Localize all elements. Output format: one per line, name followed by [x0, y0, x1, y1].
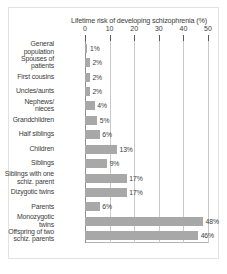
x-tick-label-20: 20: [130, 25, 138, 32]
x-tick-0: [85, 35, 86, 41]
bar-value-label: 2%: [92, 87, 102, 96]
plot-area: 010203040501%Generalpopulation2%Spouses …: [85, 41, 208, 243]
bar-value-label: 9%: [110, 159, 120, 168]
category-label-line: Spouses of: [0, 55, 54, 63]
category-label: Siblings: [0, 159, 54, 167]
bar-value-label: 48%: [206, 217, 219, 226]
category-label-line: nieces: [0, 105, 54, 113]
category-label-line: Siblings: [0, 159, 54, 167]
chart-figure: Lifetime risk of developing schizophreni…: [8, 7, 219, 259]
chart-title: Lifetime risk of developing schizophreni…: [59, 16, 219, 25]
bar-value-label: 6%: [102, 130, 112, 139]
bar: [85, 73, 90, 82]
x-tick-40: [183, 35, 184, 41]
category-label-line: General: [0, 40, 54, 48]
bar: [85, 101, 95, 110]
bar-value-label: 2%: [92, 58, 102, 67]
x-tick-30: [159, 35, 160, 41]
gridline-30: [159, 41, 160, 243]
x-tick-50: [208, 35, 209, 41]
x-tick-10: [110, 35, 111, 41]
bar: [85, 58, 90, 67]
gridline-10: [110, 41, 111, 243]
bar-value-label: 6%: [102, 202, 112, 211]
bar-value-label: 46%: [201, 231, 214, 240]
category-label: Spouses ofpatients: [0, 55, 54, 70]
category-label: Half siblings: [0, 130, 54, 138]
x-tick-label-30: 30: [155, 25, 163, 32]
bar: [85, 159, 107, 168]
gridline-50: [208, 41, 209, 243]
bar-value-label: 4%: [97, 101, 107, 110]
x-tick-label-10: 10: [106, 25, 114, 32]
bar: [85, 231, 198, 240]
category-label-line: schiz. parents: [0, 235, 54, 243]
category-label-line: patients: [0, 62, 54, 70]
bar: [85, 174, 127, 183]
category-label-line: Nephews/: [0, 98, 54, 106]
bar-value-label: 1%: [90, 44, 100, 53]
axis-baseline: [85, 242, 208, 243]
category-label: Monozygotictwins: [0, 213, 54, 228]
category-label-line: Children: [0, 145, 54, 153]
bar: [85, 44, 87, 53]
category-label-line: Uncles/aunts: [0, 87, 54, 95]
category-label: Grandchildren: [0, 116, 54, 124]
category-label-line: Siblings with one: [0, 170, 54, 178]
x-tick-20: [134, 35, 135, 41]
category-label-line: Monozygotic: [0, 213, 54, 221]
category-label: First cousins: [0, 73, 54, 81]
bar-value-label: 2%: [92, 73, 102, 82]
bar: [85, 188, 127, 197]
bar: [85, 116, 97, 125]
bar: [85, 202, 100, 211]
category-label: Siblings with oneschiz. parent: [0, 170, 54, 185]
gridline-0: [85, 41, 86, 243]
category-label-line: Parents: [0, 203, 54, 211]
bar: [85, 145, 117, 154]
x-tick-label-0: 0: [83, 25, 87, 32]
bar-value-label: 13%: [119, 145, 132, 154]
category-label: Uncles/aunts: [0, 87, 54, 95]
category-label-line: Grandchildren: [0, 116, 54, 124]
bar: [85, 130, 100, 139]
bar-value-label: 5%: [100, 116, 110, 125]
gridline-20: [134, 41, 135, 243]
category-label: Dizygotic twins: [0, 188, 54, 196]
category-label: Generalpopulation: [0, 40, 54, 55]
bar-value-label: 17%: [129, 188, 142, 197]
category-label: Children: [0, 145, 54, 153]
bar: [85, 217, 203, 226]
category-label: Nephews/nieces: [0, 98, 54, 113]
x-tick-label-50: 50: [204, 25, 212, 32]
bar: [85, 87, 90, 96]
category-label: Parents: [0, 203, 54, 211]
gridline-40: [183, 41, 184, 243]
category-label-line: Dizygotic twins: [0, 188, 54, 196]
category-label-line: schiz. parent: [0, 178, 54, 186]
bar-value-label: 17%: [129, 174, 142, 183]
x-tick-label-40: 40: [179, 25, 187, 32]
category-label-line: Offspring of two: [0, 228, 54, 236]
category-label-line: Half siblings: [0, 130, 54, 138]
category-label: Offspring of twoschiz. parents: [0, 228, 54, 243]
category-label-line: First cousins: [0, 73, 54, 81]
